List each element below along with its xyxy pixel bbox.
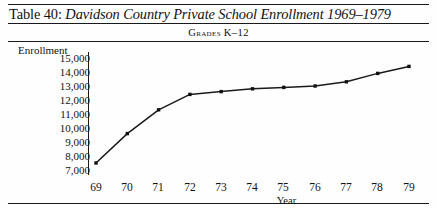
- enrollment-line-series: [0, 40, 437, 180]
- x-tick-label: 72: [184, 180, 196, 194]
- data-point: [282, 86, 285, 89]
- table-title: Table 40: Davidson Country Private Schoo…: [9, 5, 429, 23]
- series-markers: [94, 65, 410, 165]
- data-point: [251, 87, 254, 90]
- plot-area: 15,000 14,000 13,000 12,000 11,000 10,00…: [0, 40, 437, 180]
- x-tick-label: 69: [90, 180, 102, 194]
- data-point: [407, 65, 410, 68]
- x-axis-title: Year: [277, 195, 296, 206]
- x-axis-title-wrap: Year: [0, 194, 437, 207]
- data-point: [376, 72, 379, 75]
- data-point: [188, 93, 191, 96]
- data-point: [94, 161, 97, 164]
- data-point: [220, 90, 223, 93]
- x-tick-label: 71: [152, 180, 164, 194]
- x-tick-label: 74: [246, 180, 258, 194]
- x-tick-label: 77: [340, 180, 352, 194]
- x-tick-label: 73: [215, 180, 227, 194]
- x-tick-label: 70: [121, 180, 133, 194]
- x-tick-label: 79: [403, 180, 415, 194]
- table-title-text: Davidson Country Private School Enrollme…: [65, 6, 391, 22]
- table-figure: Table 40: Davidson Country Private Schoo…: [0, 0, 437, 208]
- data-point: [313, 84, 316, 87]
- rule-under-title: [8, 23, 429, 24]
- data-point: [126, 132, 129, 135]
- table-number-label: Table 40:: [9, 6, 62, 22]
- table-subtitle: Grades K–12: [0, 25, 437, 40]
- rule-bottom: [8, 203, 429, 204]
- data-point: [157, 108, 160, 111]
- series-line: [96, 66, 409, 163]
- x-tick-label: 76: [309, 180, 321, 194]
- x-tick-label: 78: [371, 180, 383, 194]
- x-tick-label: 75: [277, 180, 289, 194]
- data-point: [345, 80, 348, 83]
